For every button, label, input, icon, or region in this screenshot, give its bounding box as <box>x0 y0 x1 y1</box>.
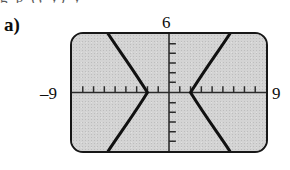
hyperbola-plot <box>72 34 266 151</box>
x-max-label: 9 <box>272 85 281 102</box>
x-min-label: –9 <box>40 85 57 102</box>
part-label: a) <box>4 15 20 34</box>
calculator-screen <box>70 32 268 153</box>
cropped-text-line-above: g p (, y) y <box>0 0 290 3</box>
y-max-label: 6 <box>162 14 171 31</box>
